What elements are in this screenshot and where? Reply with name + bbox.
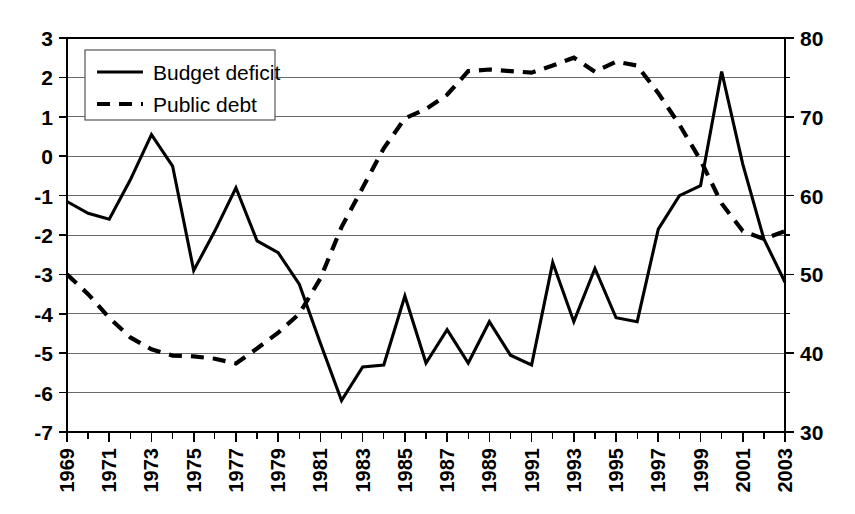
x-tick-label: 1979 bbox=[267, 448, 289, 493]
legend-label: Public debt bbox=[153, 93, 257, 116]
x-tick-label: 1969 bbox=[56, 448, 78, 493]
right-axis-ticks bbox=[785, 38, 794, 432]
chart-container: 3210-1-2-3-4-5-6-7 807060504030 19691971… bbox=[0, 0, 855, 514]
right-tick-label: 30 bbox=[800, 421, 823, 444]
left-tick-label: 1 bbox=[41, 106, 53, 129]
x-tick-label: 1973 bbox=[140, 448, 162, 493]
chart-legend: Budget deficitPublic debt bbox=[85, 50, 280, 120]
left-tick-label: -2 bbox=[34, 224, 53, 247]
x-tick-label: 2001 bbox=[732, 448, 754, 493]
x-tick-label: 1989 bbox=[478, 448, 500, 493]
x-tick-label: 1993 bbox=[563, 448, 585, 493]
right-tick-label: 80 bbox=[800, 27, 823, 50]
x-tick-label: 1971 bbox=[98, 448, 120, 493]
x-tick-label: 2003 bbox=[774, 448, 796, 493]
x-tick-label: 1975 bbox=[183, 448, 205, 493]
right-tick-label: 40 bbox=[800, 342, 823, 365]
x-tick-label: 1987 bbox=[436, 448, 458, 493]
x-axis-ticks bbox=[67, 432, 785, 442]
left-axis-tick-labels: 3210-1-2-3-4-5-6-7 bbox=[34, 27, 53, 444]
x-tick-label: 1999 bbox=[690, 448, 712, 493]
left-tick-label: -7 bbox=[34, 421, 53, 444]
right-tick-label: 70 bbox=[800, 106, 823, 129]
left-tick-label: -5 bbox=[34, 342, 53, 365]
x-tick-label: 1995 bbox=[605, 448, 627, 493]
x-tick-label: 1991 bbox=[521, 448, 543, 493]
right-tick-label: 60 bbox=[800, 185, 823, 208]
x-axis-tick-labels: 1969197119731975197719791981198319851987… bbox=[56, 448, 796, 493]
left-tick-label: 0 bbox=[41, 145, 53, 168]
right-tick-label: 50 bbox=[800, 263, 823, 286]
x-tick-label: 1977 bbox=[225, 448, 247, 493]
x-tick-label: 1983 bbox=[352, 448, 374, 493]
x-tick-label: 1981 bbox=[309, 448, 331, 493]
left-tick-label: -6 bbox=[34, 382, 53, 405]
left-tick-label: -4 bbox=[34, 303, 53, 326]
x-tick-label: 1985 bbox=[394, 448, 416, 493]
dual-axis-line-chart: 3210-1-2-3-4-5-6-7 807060504030 19691971… bbox=[0, 0, 855, 514]
left-tick-label: 2 bbox=[41, 66, 53, 89]
left-tick-label: -3 bbox=[34, 263, 53, 286]
x-tick-label: 1997 bbox=[647, 448, 669, 493]
series-line-budget-deficit bbox=[67, 71, 785, 400]
right-axis-tick-labels: 807060504030 bbox=[800, 27, 823, 444]
legend-label: Budget deficit bbox=[153, 61, 280, 84]
left-tick-label: -1 bbox=[34, 185, 53, 208]
left-tick-label: 3 bbox=[41, 27, 53, 50]
